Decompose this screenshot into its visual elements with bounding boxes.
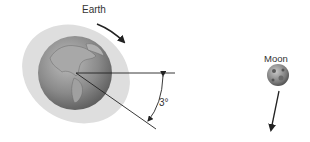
angle-label: 3° <box>159 97 169 108</box>
tidal-bulge-diagram <box>0 0 310 142</box>
moon-orbit-arrow <box>271 91 279 130</box>
moon-label: Moon <box>264 53 288 64</box>
earth-label: Earth <box>82 4 106 15</box>
moon-sphere <box>267 64 289 86</box>
